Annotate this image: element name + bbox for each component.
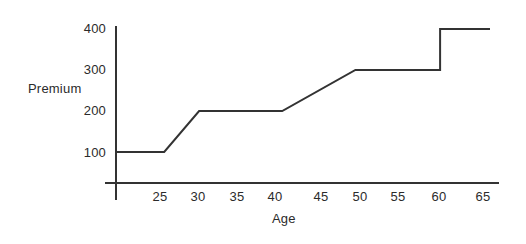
x-tick-label-40: 40 [260,190,290,203]
y-axis-title: Premium [28,82,81,95]
premium-vs-age-chart: 400 300 200 100 Premium 25 30 35 40 45 5… [0,0,526,244]
x-tick-label-45: 45 [306,190,336,203]
x-tick-label-30: 30 [183,190,213,203]
y-tick-label-400: 400 [66,22,106,35]
chart-plot-area [0,0,526,244]
y-tick-label-300: 300 [66,63,106,76]
x-tick-label-35: 35 [222,190,252,203]
x-tick-label-60: 60 [424,190,454,203]
y-tick-label-100: 100 [66,146,106,159]
x-axis-title: Age [272,212,296,225]
y-tick-label-200: 200 [66,104,106,117]
premium-series-line [116,29,490,152]
x-tick-label-65: 65 [468,190,498,203]
x-tick-label-25: 25 [145,190,175,203]
x-tick-label-50: 50 [345,190,375,203]
x-tick-label-55: 55 [383,190,413,203]
